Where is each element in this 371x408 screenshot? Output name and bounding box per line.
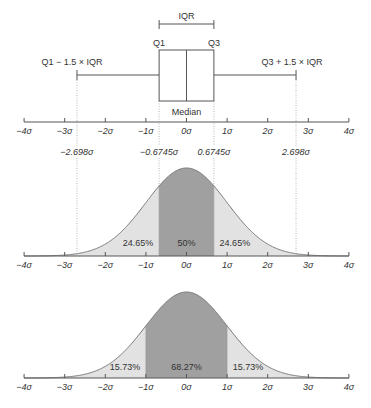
x-axis-tick-label: −2σ — [97, 382, 113, 392]
x-axis-tick-label: −3σ — [57, 126, 73, 136]
left-tail-percent-label: 15.73% — [110, 362, 141, 372]
x-axis-tick-label: 4σ — [344, 260, 355, 270]
median-label: Median — [172, 107, 202, 117]
x-axis-tick-label: 0σ — [181, 126, 192, 136]
x-axis-tick-label: 0σ — [181, 260, 192, 270]
sigma-marker-label: 0.6745σ — [197, 147, 231, 157]
q1-label: Q1 — [153, 38, 165, 48]
central-percent-label: 50% — [177, 238, 195, 248]
q3-label: Q3 — [208, 38, 220, 48]
x-axis-tick-label: 2σ — [261, 126, 273, 136]
x-axis-tick-label: 2σ — [261, 382, 273, 392]
upper-fence-label: Q3 + 1.5 × IQR — [261, 57, 323, 67]
x-axis-tick-label: 1σ — [222, 260, 233, 270]
x-axis-tick-label: 3σ — [303, 260, 314, 270]
x-axis-tick-label: 4σ — [344, 126, 355, 136]
sigma-marker-label: −0.6745σ — [140, 147, 179, 157]
x-axis-tick-label: −1σ — [138, 126, 154, 136]
boxplot-normal-distribution-figure: IQRQ1Q3Q1 − 1.5 × IQRQ3 + 1.5 × IQRMedia… — [0, 0, 371, 408]
x-axis-tick-label: −4σ — [16, 382, 32, 392]
x-axis-tick-label: −3σ — [57, 260, 73, 270]
left-tail-percent-label: 24.65% — [123, 238, 154, 248]
x-axis-tick-label: 1σ — [222, 126, 233, 136]
x-axis-tick-label: −4σ — [16, 126, 32, 136]
lower-fence-label: Q1 − 1.5 × IQR — [41, 57, 103, 67]
x-axis-tick-label: −1σ — [138, 260, 154, 270]
iqr-distribution-panel: 24.65%50%24.65%−4σ−3σ−2σ−1σ0σ1σ2σ3σ4σ — [16, 168, 354, 270]
x-axis-tick-label: 3σ — [303, 126, 314, 136]
x-axis-tick-label: 3σ — [303, 382, 314, 392]
central-percent-label: 68.27% — [171, 362, 202, 372]
x-axis-tick-label: −2σ — [97, 260, 113, 270]
x-axis-tick-label: −3σ — [57, 382, 73, 392]
boxplot-panel: IQRQ1Q3Q1 − 1.5 × IQRQ3 + 1.5 × IQRMedia… — [16, 11, 354, 157]
sigma-marker-label: −2.698σ — [60, 147, 94, 157]
x-axis-tick-label: 0σ — [181, 382, 192, 392]
iqr-label: IQR — [178, 11, 195, 21]
x-axis-tick-label: −1σ — [138, 382, 154, 392]
x-axis-tick-label: 4σ — [344, 382, 355, 392]
right-tail-percent-label: 24.65% — [220, 238, 251, 248]
right-tail-percent-label: 15.73% — [233, 362, 264, 372]
x-axis-tick-label: −4σ — [16, 260, 32, 270]
x-axis-tick-label: 2σ — [261, 260, 273, 270]
x-axis-tick-label: −2σ — [97, 126, 113, 136]
sigma-marker-label: 2.698σ — [281, 147, 311, 157]
x-axis-tick-label: 1σ — [222, 382, 233, 392]
sigma-distribution-panel: 15.73%68.27%15.73%−4σ−3σ−2σ−1σ0σ1σ2σ3σ4σ — [16, 292, 354, 392]
